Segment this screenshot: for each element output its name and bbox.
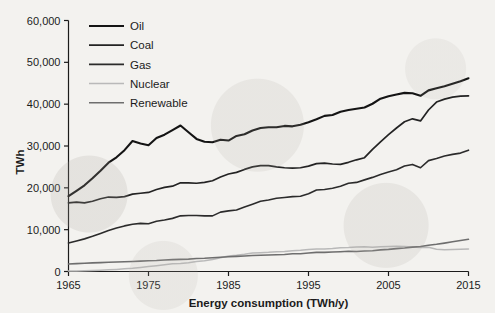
series-line-coal [69, 96, 469, 203]
series-group [69, 78, 469, 271]
energy-consumption-line-chart: 010,00020,00030,00040,00050,00060,000196… [0, 0, 495, 313]
x-axis-tick-label: 2005 [376, 279, 400, 291]
legend-label-renewable: Renewable [130, 97, 188, 109]
series-line-nuclear [69, 246, 469, 271]
legend-label-nuclear: Nuclear [130, 78, 170, 90]
x-axis-tick-label: 2015 [456, 279, 480, 291]
series-line-oil [69, 78, 469, 196]
y-axis-tick-label: 30,000 [27, 140, 61, 152]
y-axis-tick-label: 10,000 [27, 224, 61, 236]
x-axis-title: Energy consumption (TWh/y) [189, 297, 349, 309]
y-axis-tick-label: 0 [54, 266, 60, 278]
legend-label-gas: Gas [130, 59, 151, 71]
series-line-gas [69, 150, 469, 243]
legend: OilCoalGasNuclearRenewable [89, 20, 188, 109]
x-axis-tick-label: 1995 [296, 279, 320, 291]
y-axis-tick-label: 40,000 [27, 98, 61, 110]
legend-label-coal: Coal [130, 39, 154, 51]
x-axis-tick-label: 1985 [216, 279, 240, 291]
y-axis-title: TWh [14, 150, 26, 175]
y-axis-tick-label: 20,000 [27, 182, 61, 194]
legend-label-oil: Oil [130, 20, 144, 32]
y-axis-tick-label: 60,000 [27, 15, 61, 27]
x-axis-tick-label: 1965 [56, 279, 80, 291]
x-axis-tick-label: 1975 [136, 279, 160, 291]
axes-group: 010,00020,00030,00040,00050,00060,000196… [14, 15, 481, 309]
y-axis-tick-label: 50,000 [27, 56, 61, 68]
chart-canvas: 010,00020,00030,00040,00050,00060,000196… [0, 0, 495, 313]
